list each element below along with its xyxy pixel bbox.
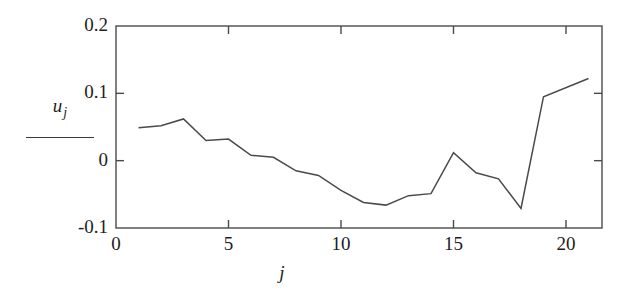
- plot-svg: [0, 0, 630, 302]
- plot-frame-rect: [116, 26, 602, 228]
- plot-frame: [116, 26, 602, 228]
- axis-ticks: [116, 26, 602, 228]
- data-series-group: [139, 79, 589, 209]
- figure-container: uj -0.1 0 0.1 0.2 0 5 10 15 20 j: [0, 0, 630, 302]
- data-line-0: [139, 79, 589, 209]
